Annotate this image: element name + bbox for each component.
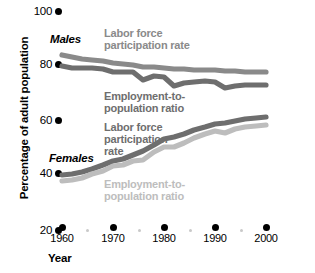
x-tick-marker-icon (263, 224, 270, 231)
x-tick-marker-icon (212, 224, 219, 231)
x-minor-tick-1975 (138, 229, 141, 232)
x-tick-1990: 1990 (201, 224, 229, 244)
chart-container: Percentage of adult population 100 80 60… (0, 0, 315, 273)
x-minor-marker-icon (138, 229, 141, 232)
males-epr-label: Employment-to- population ratio (104, 90, 185, 114)
x-minor-marker-icon (189, 229, 192, 232)
x-axis-title: Year (48, 252, 72, 264)
x-tick-1980: 1980 (150, 224, 178, 244)
males-lfp-label: Labor force participation rate (104, 27, 190, 51)
x-minor-tick-1995 (240, 229, 243, 232)
x-minor-tick-1985 (189, 229, 192, 232)
males-group-label: Males (50, 33, 81, 45)
x-tick-1960: 1960 (48, 224, 76, 244)
x-tick-label-1960: 1960 (50, 232, 73, 244)
x-tick-label-1990: 1990 (203, 232, 226, 244)
females-epr-label: Employment-to- population ratio (104, 178, 185, 202)
x-tick-1970: 1970 (99, 224, 127, 244)
x-tick-2000: 2000 (252, 224, 280, 244)
x-tick-marker-icon (59, 224, 66, 231)
x-tick-marker-icon (161, 224, 168, 231)
x-minor-tick-1965 (86, 229, 89, 232)
females-lfp-label: Labor force participation rate (104, 121, 167, 157)
x-tick-marker-icon (110, 224, 117, 231)
x-tick-label-1970: 1970 (101, 232, 124, 244)
x-tick-label-2000: 2000 (254, 232, 277, 244)
females-group-label: Females (49, 152, 94, 164)
x-minor-marker-icon (240, 229, 243, 232)
x-tick-label-1980: 1980 (152, 232, 175, 244)
x-minor-marker-icon (86, 229, 89, 232)
